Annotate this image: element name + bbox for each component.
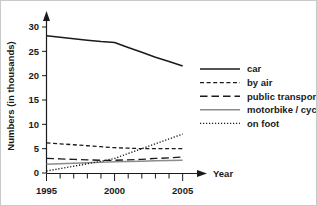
y-tick-label: 30 [28, 21, 39, 32]
y-tick-group: 051015202530 [28, 21, 46, 178]
y-tick-label: 20 [28, 70, 39, 81]
legend: carby airpublic transportmotorbike / cyc… [200, 63, 317, 128]
chart-plot-area: 051015202530 199520002005 Numbers (in th… [1, 1, 317, 206]
x-axis-arrow-icon [197, 170, 207, 177]
transport-usage-line-chart: 051015202530 199520002005 Numbers (in th… [0, 0, 317, 206]
y-axis-title: Numbers (in thousands) [5, 41, 16, 150]
series-group [47, 36, 183, 171]
series-line-car [47, 36, 183, 66]
x-tick-label: 2000 [104, 185, 125, 196]
y-axis-arrow-icon [43, 11, 50, 21]
series-line-on-foot [47, 134, 183, 171]
y-tick-label: 5 [34, 143, 40, 154]
x-tick-label: 2005 [172, 185, 194, 196]
legend-label-public-transport: public transport [247, 91, 317, 102]
legend-label-on-foot: on foot [247, 118, 280, 129]
y-tick-label: 0 [34, 167, 39, 178]
x-tick-label: 1995 [36, 185, 58, 196]
y-tick-label: 15 [28, 94, 39, 105]
legend-label-by-air: by air [247, 77, 273, 88]
y-tick-label: 10 [28, 119, 39, 130]
y-tick-label: 25 [28, 46, 39, 57]
series-line-by-air [47, 143, 183, 149]
legend-label-car: car [247, 63, 262, 74]
series-line-motorbike-cycle [47, 160, 183, 164]
x-tick-group: 199520002005 [36, 174, 194, 197]
x-axis-title: Year [213, 168, 233, 179]
legend-label-motorbike-cycle: motorbike / cycle [247, 104, 317, 115]
